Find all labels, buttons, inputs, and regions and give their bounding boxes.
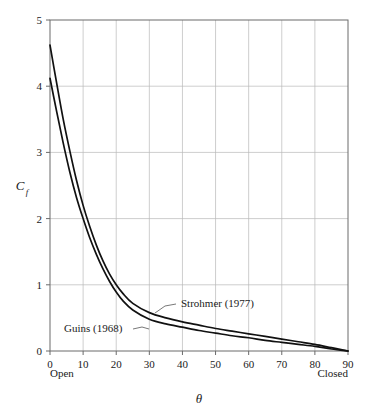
cf-vs-theta-line-chart: 0102030405060708090 012345 Open Closed θ… [0,0,379,418]
x-tick-label: 30 [144,358,156,370]
x-tick-label: 20 [111,358,123,370]
chart-figure: 0102030405060708090 012345 Open Closed θ… [0,0,379,418]
y-tick-label: 1 [37,279,43,291]
y-axis-title-main: C [16,178,25,193]
annotation-strohmer-text: Strohmer (1977) [181,297,254,310]
x-tick-label: 60 [243,358,255,370]
y-tick-label: 3 [37,146,43,158]
x-tick-label: 10 [78,358,90,370]
x-tick-label: 70 [276,358,288,370]
x-axis-closed-label: Closed [317,367,348,379]
x-axis-title: θ [196,391,203,406]
x-tick-label: 50 [210,358,222,370]
chart-background [0,0,379,418]
x-axis-open-label: Open [50,367,74,379]
annotation-guins-text: Guins (1968) [64,322,123,335]
x-tick-label: 40 [177,358,189,370]
y-tick-label: 4 [37,80,43,92]
y-tick-label: 0 [37,345,43,357]
y-tick-label: 2 [37,213,43,225]
y-tick-label: 5 [37,14,43,26]
